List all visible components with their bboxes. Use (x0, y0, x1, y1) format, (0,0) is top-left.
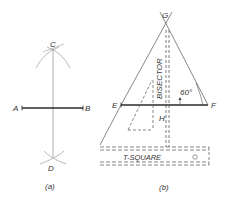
extension-line (100, 105, 121, 145)
caption-b: (b) (159, 183, 169, 192)
hole-icon (193, 155, 197, 159)
bisector-label: BISECTOR (155, 58, 164, 99)
label-f: F (211, 101, 217, 110)
arc-c-right (47, 47, 70, 68)
geometry-diagram: C A B D (a) G (0, 0, 225, 202)
label-a: A (12, 104, 18, 113)
label-c: C (50, 40, 56, 49)
label-h: H (159, 114, 165, 123)
label-e: E (112, 101, 118, 110)
angle-label: 60° (180, 88, 193, 97)
caption-a: (a) (45, 182, 55, 191)
figure-b: G E F H 60° BISECTOR T-SQUARE (b) (100, 11, 217, 192)
figure-a: C A B D (a) (12, 40, 91, 191)
tsquare-label: T-SQUARE (123, 153, 162, 162)
arrow-head-icon (179, 97, 182, 100)
label-g: G (162, 11, 168, 20)
line-ge (121, 12, 172, 105)
label-d: D (48, 164, 54, 173)
label-b: B (85, 104, 91, 113)
